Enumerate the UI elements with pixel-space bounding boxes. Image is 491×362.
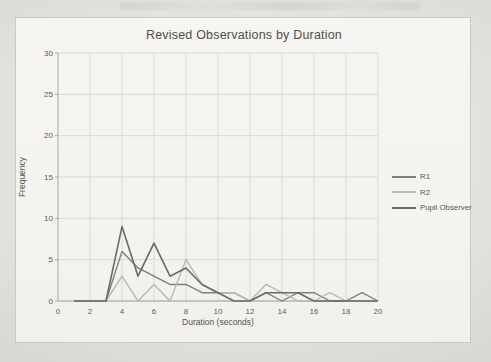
legend-swatch [392,191,416,193]
x-tick-label: 14 [274,307,290,316]
x-axis-title: Duration (seconds) [58,317,378,327]
series-line-pupil-observer [74,227,378,301]
legend-item-r1: R1 [392,169,472,185]
series-line-r2 [74,260,378,301]
y-tick-label: 15 [31,173,53,182]
legend-swatch [392,207,416,209]
x-tick-label: 0 [50,307,66,316]
x-tick-label: 2 [82,307,98,316]
y-tick-label: 20 [31,131,53,140]
legend-item-pupil-observer: Pupil Observer [392,200,472,216]
x-tick-label: 8 [178,307,194,316]
legend-label: Pupil Observer [420,203,472,212]
scanned-page: { "page": { "background_hex": "#e9e8e4",… [0,0,491,362]
y-tick-label: 0 [31,297,53,306]
x-tick-label: 10 [210,307,226,316]
x-tick-label: 4 [114,307,130,316]
x-tick-label: 20 [370,307,386,316]
x-tick-label: 16 [306,307,322,316]
legend: R1R2Pupil Observer [392,169,472,216]
x-tick-label: 18 [338,307,354,316]
legend-swatch [392,176,416,178]
y-tick-label: 25 [31,90,53,99]
y-tick-label: 10 [31,214,53,223]
legend-item-r2: R2 [392,185,472,201]
x-tick-label: 6 [146,307,162,316]
legend-label: R1 [420,172,430,181]
chart-frame: Revised Observations by Duration 0510152… [15,17,471,343]
y-tick-label: 5 [31,255,53,264]
scan-smudge [120,2,420,10]
x-tick-label: 12 [242,307,258,316]
y-tick-label: 30 [31,49,53,58]
legend-label: R2 [420,188,430,197]
